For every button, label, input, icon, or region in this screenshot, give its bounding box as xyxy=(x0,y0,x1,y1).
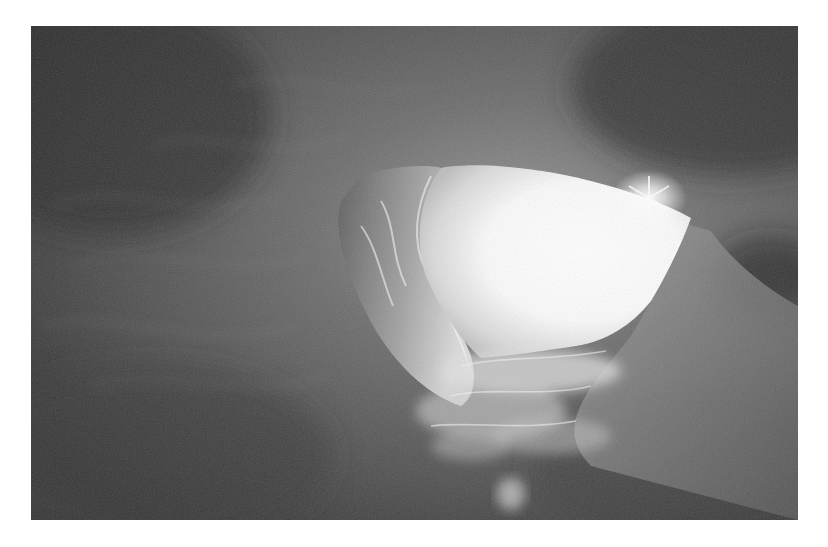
ice-cave-photo xyxy=(31,26,798,520)
ice-cave-illustration xyxy=(31,26,798,520)
film-grain xyxy=(31,26,798,520)
page xyxy=(0,0,828,547)
